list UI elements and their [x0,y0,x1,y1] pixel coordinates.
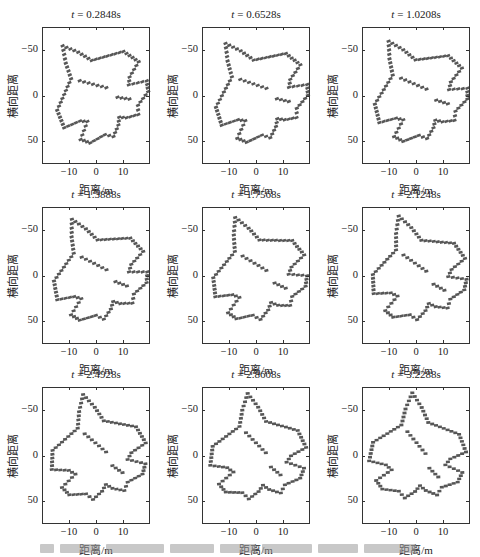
x-tick-label: 0 [241,166,271,177]
x-tick-mark [96,27,97,30]
y-axis-label: 横向距离 [324,66,340,126]
x-tick-mark [389,340,390,343]
subplot-title: t = 2.8608s [202,368,310,380]
plot-area [362,387,470,524]
y-tick-mark [466,276,469,277]
subplot-7: t = 2.4928s−50050−10010距离/m横向距离 [0,360,160,540]
x-tick-mark [283,520,284,523]
x-tick-label: 10 [428,346,458,357]
x-tick-mark [443,207,444,210]
x-tick-mark [389,160,390,163]
y-tick-mark [306,501,309,502]
y-tick-mark [362,50,365,51]
x-tick-label: 0 [241,526,271,537]
x-tick-mark [123,207,124,210]
y-tick-mark [146,321,149,322]
y-tick-label: 50 [328,314,358,325]
y-tick-mark [146,410,149,411]
scatter-image [363,28,471,165]
y-tick-mark [146,141,149,142]
subplot-6: t = 2.1248s−50050−10010距离/m横向距离 [320,180,480,360]
y-tick-mark [362,96,365,97]
x-tick-label: 10 [268,166,298,177]
subplot-4: t = 1.3888s−50050−10010距离/m横向距离 [0,180,160,360]
y-axis-label: 横向距离 [4,426,20,486]
y-tick-mark [306,96,309,97]
y-tick-mark [362,456,365,457]
plot-area [202,387,310,524]
x-tick-label: 10 [268,526,298,537]
y-tick-mark [42,230,45,231]
y-tick-mark [466,96,469,97]
x-tick-mark [123,387,124,390]
x-tick-mark [123,160,124,163]
y-tick-mark [466,141,469,142]
x-tick-label: 10 [428,526,458,537]
figure-caption-clipped [40,543,440,554]
x-tick-label: −10 [54,166,84,177]
x-tick-label: −10 [374,526,404,537]
x-tick-label: −10 [54,526,84,537]
y-tick-mark [306,50,309,51]
y-tick-mark [42,96,45,97]
x-tick-label: 0 [81,346,111,357]
x-tick-mark [389,27,390,30]
x-tick-label: 0 [401,526,431,537]
y-tick-mark [42,276,45,277]
x-tick-mark [256,207,257,210]
y-axis-label: 横向距离 [164,66,180,126]
y-tick-mark [466,501,469,502]
y-tick-label: 50 [8,314,38,325]
x-tick-mark [229,27,230,30]
y-axis-label: 横向距离 [324,246,340,306]
x-tick-mark [96,207,97,210]
y-tick-mark [466,321,469,322]
y-tick-mark [362,321,365,322]
subplot-9: t = 3.2288s−50050−10010距离/m横向距离 [320,360,480,540]
y-tick-label: 50 [328,134,358,145]
subplot-5: t = 1.7568s−50050−10010距离/m横向距离 [160,180,320,360]
x-tick-label: −10 [374,346,404,357]
plot-area [362,27,470,164]
x-tick-mark [416,27,417,30]
y-tick-mark [306,230,309,231]
x-tick-mark [443,340,444,343]
y-tick-mark [202,321,205,322]
y-tick-mark [306,276,309,277]
subplot-title: t = 1.7568s [202,188,310,200]
subplot-title: t = 0.6528s [202,8,310,20]
x-tick-label: 10 [108,526,138,537]
x-tick-mark [229,160,230,163]
x-tick-mark [283,27,284,30]
x-tick-label: −10 [214,166,244,177]
x-tick-mark [256,160,257,163]
x-tick-mark [283,207,284,210]
y-tick-mark [466,230,469,231]
x-tick-mark [256,27,257,30]
x-tick-label: 0 [81,166,111,177]
x-tick-mark [283,160,284,163]
y-tick-mark [306,456,309,457]
y-tick-mark [466,50,469,51]
y-tick-mark [202,456,205,457]
plot-area [362,207,470,344]
x-tick-label: 0 [401,166,431,177]
x-tick-label: 0 [81,526,111,537]
y-tick-label: 50 [8,134,38,145]
y-tick-mark [466,410,469,411]
y-tick-mark [306,321,309,322]
y-tick-label: 50 [168,494,198,505]
y-tick-label: −50 [8,223,38,234]
x-tick-mark [256,520,257,523]
subplot-2: t = 0.6528s−50050−10010距离/m横向距离 [160,0,320,180]
x-tick-mark [416,340,417,343]
y-tick-mark [362,410,365,411]
y-tick-mark [362,501,365,502]
x-tick-mark [443,387,444,390]
x-tick-label: 0 [401,346,431,357]
x-tick-label: 10 [428,166,458,177]
x-tick-mark [69,27,70,30]
scatter-image [43,28,151,165]
y-tick-mark [42,141,45,142]
y-axis-label: 横向距离 [4,246,20,306]
